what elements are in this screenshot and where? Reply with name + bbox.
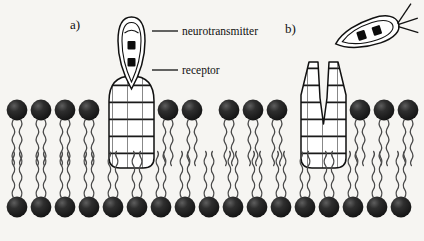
neurotransmitter-receptor-diagram: a) b) neurotransmitter receptor — [0, 0, 424, 241]
panel-label-a: a) — [70, 17, 80, 33]
ligand-dot — [128, 41, 136, 50]
receptor-label: receptor — [182, 64, 220, 76]
ligand-dot — [128, 58, 136, 67]
neurotransmitter-label: neurotransmitter — [182, 25, 258, 37]
panel-label-b: b) — [285, 21, 296, 37]
